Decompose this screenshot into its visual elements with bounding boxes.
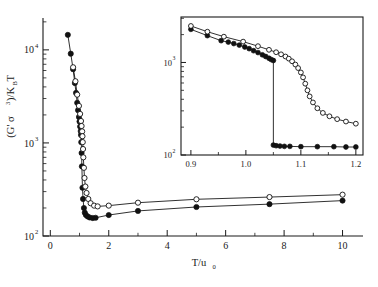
main-y-tick-mantissa: 10 (24, 138, 34, 149)
main-x-tick-label: 6 (223, 240, 228, 251)
data-point (331, 144, 336, 149)
data-point (221, 34, 226, 39)
main-y-axis-title-text2: )/K (5, 87, 17, 101)
data-point (95, 204, 100, 209)
main-y-axis-title-text: (G' σ (5, 116, 17, 138)
data-point (353, 145, 358, 150)
inset-y-tick-exponent: 3 (173, 55, 176, 61)
inset-y-tick-exponent: 2 (173, 148, 176, 154)
data-point (226, 40, 231, 45)
data-point (311, 100, 316, 105)
inset-y-tick-mantissa: 10 (164, 58, 173, 68)
main-y-tick-label: 102 (24, 228, 38, 242)
data-point (83, 184, 88, 189)
main-y-axis-title-text3: T (5, 75, 16, 82)
data-point (81, 165, 86, 170)
data-point (205, 29, 210, 34)
data-point (73, 79, 78, 84)
data-point (189, 24, 194, 29)
data-point (241, 39, 246, 44)
chart-svg: 0246810102103104T/u0(G' σ3)/KBT0.91.01.1… (0, 0, 378, 287)
inset-plot-group: 0.91.01.11.2102103 (147, 11, 369, 179)
data-point (71, 65, 76, 70)
data-point (353, 121, 358, 126)
inset-y-tick-mantissa: 10 (164, 150, 173, 160)
inset-x-tick-label: 0.9 (186, 159, 197, 169)
data-point (274, 50, 279, 55)
data-point (194, 204, 199, 209)
data-point (301, 75, 306, 80)
data-point (335, 117, 340, 122)
data-point (93, 215, 98, 220)
figure-container: 0246810102103104T/u0(G' σ3)/KBT0.91.01.1… (0, 0, 378, 287)
data-point (307, 94, 312, 99)
data-point (256, 50, 261, 55)
data-point (65, 32, 70, 37)
data-point (81, 205, 86, 210)
data-point (80, 146, 85, 151)
data-point (106, 212, 111, 217)
data-point (80, 140, 85, 145)
data-point (78, 111, 83, 116)
inset-background (147, 11, 369, 179)
main-x-tick-label: 4 (165, 240, 170, 251)
data-point (106, 203, 111, 208)
main-x-tick-label: 10 (338, 240, 348, 251)
data-point (315, 144, 320, 149)
main-x-tick-label: 2 (106, 240, 111, 251)
main-y-tick-exponent: 3 (35, 135, 39, 142)
data-point (344, 145, 349, 150)
data-point (340, 192, 345, 197)
data-point (298, 70, 303, 75)
main-y-tick-label: 104 (24, 42, 39, 56)
data-point (135, 208, 140, 213)
data-point (282, 144, 287, 149)
data-point (298, 144, 303, 149)
data-point (305, 88, 310, 93)
main-x-tick-label: 0 (48, 240, 53, 251)
data-point (79, 123, 84, 128)
data-point (80, 196, 85, 201)
data-point (327, 114, 332, 119)
data-point (315, 106, 320, 111)
data-point (296, 66, 301, 71)
data-point (271, 58, 276, 63)
inset-x-tick-label: 1.0 (241, 159, 252, 169)
data-point (81, 155, 86, 160)
main-x-axis-title-subscript: 0 (213, 263, 217, 270)
main-y-tick-exponent: 4 (35, 42, 39, 49)
main-y-tick-exponent: 2 (35, 228, 38, 235)
data-point (68, 51, 73, 56)
data-point (80, 134, 85, 139)
data-point (84, 190, 89, 195)
data-point (76, 103, 81, 108)
data-point (344, 119, 349, 124)
main-x-axis-title: T/u0 (192, 257, 217, 270)
data-point (78, 118, 83, 123)
data-point (267, 194, 272, 199)
data-point (75, 92, 80, 97)
main-y-tick-label: 103 (24, 135, 39, 149)
main-y-axis-title: (G' σ3)/KBT (4, 75, 18, 138)
data-point (267, 202, 272, 207)
main-y-tick-mantissa: 10 (24, 44, 34, 55)
inset-x-tick-label: 1.1 (296, 159, 307, 169)
data-point (231, 41, 236, 46)
data-point (320, 111, 325, 116)
data-point (340, 198, 345, 203)
data-point (82, 175, 87, 180)
main-x-axis-title-text: T/u (192, 257, 207, 268)
data-point (256, 44, 261, 49)
data-point (303, 81, 308, 86)
data-point (267, 47, 272, 52)
data-point (135, 200, 140, 205)
data-point (194, 197, 199, 202)
main-y-tick-mantissa: 10 (24, 231, 34, 242)
main-x-tick-label: 8 (282, 240, 287, 251)
data-point (287, 144, 292, 149)
inset-x-tick-label: 1.2 (351, 159, 362, 169)
